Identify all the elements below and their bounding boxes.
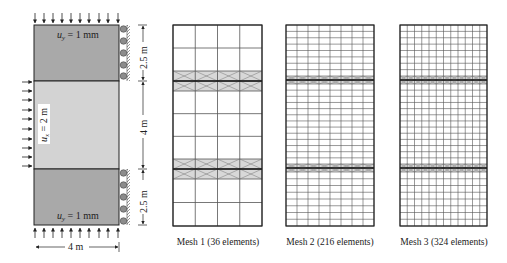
mesh-1: [173, 25, 262, 226]
mesh-1-caption: Mesh 1 (36 elements): [177, 237, 260, 248]
top-load-arrows: [35, 13, 118, 23]
roller-support-bottom: [120, 169, 130, 225]
dim-bottom-label: 2.5 m: [138, 190, 149, 213]
bottom-load-arrows: [35, 228, 118, 238]
problem-figure: uy = 1 mm uy = 1 mm ux = 2 m 2.5 m 4: [22, 13, 149, 252]
mesh-3-caption: Mesh 3 (324 elements): [400, 237, 487, 248]
dim-width-label: 4 m: [68, 241, 84, 252]
side-load-arrows: [22, 82, 32, 166]
roller-support-top: [120, 25, 130, 81]
mesh-2-caption: Mesh 2 (216 elements): [286, 237, 373, 248]
dim-top-label: 2.5 m: [138, 46, 149, 69]
mesh-3: [400, 25, 487, 226]
dim-middle-label: 4 m: [138, 120, 149, 136]
figure-canvas: uy = 1 mm uy = 1 mm ux = 2 m 2.5 m 4: [0, 0, 507, 263]
mesh-2: [286, 25, 374, 226]
